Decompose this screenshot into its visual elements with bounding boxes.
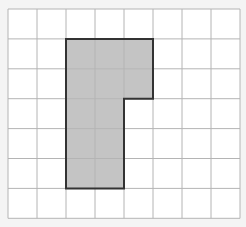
shaded-cell xyxy=(95,99,124,129)
shaded-cell xyxy=(124,39,153,69)
shaded-cell xyxy=(66,159,95,189)
shaded-cell xyxy=(124,69,153,99)
shaded-cell xyxy=(95,159,124,189)
shaded-cell xyxy=(95,129,124,159)
grid-diagram xyxy=(0,0,246,227)
shaded-cell xyxy=(95,39,124,69)
shaded-cell xyxy=(66,129,95,159)
shaded-cell xyxy=(66,39,95,69)
shaded-cell xyxy=(66,69,95,99)
shaded-cell xyxy=(95,69,124,99)
shaded-cell xyxy=(66,99,95,129)
